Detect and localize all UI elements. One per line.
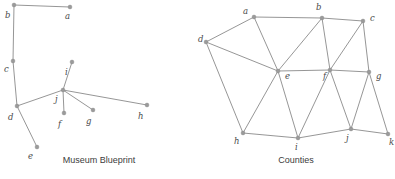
- caption-museum-blueprint: Museum Blueprint: [0, 155, 198, 165]
- graph-node-h[interactable]: [241, 131, 245, 135]
- graph-node-label-d: d: [198, 34, 204, 44]
- graph-node-label-b: b: [316, 2, 321, 12]
- graph-edge: [243, 71, 278, 133]
- graph-edge: [13, 61, 17, 106]
- graph-node-label-i: i: [65, 67, 68, 77]
- graph-edge: [63, 90, 64, 113]
- graph-node-c[interactable]: [361, 19, 365, 23]
- graph-node-d[interactable]: [15, 104, 19, 108]
- graph-edge: [63, 90, 147, 105]
- graph-counties: abcdefghijk: [197, 0, 395, 150]
- graph-node-label-a: a: [243, 6, 248, 16]
- graph-node-label-b: b: [5, 10, 10, 20]
- graph-node-label-d: d: [8, 112, 14, 122]
- graph-node-label-e: e: [285, 71, 290, 81]
- panel-counties: abcdefghijk Counties: [197, 0, 395, 179]
- graph-edge: [363, 21, 369, 72]
- graph-node-b[interactable]: [12, 3, 16, 7]
- graph-museum-blueprint: abcdefghij: [0, 0, 198, 150]
- graph-edge: [351, 129, 388, 134]
- graph-edge: [278, 71, 298, 138]
- graph-node-c[interactable]: [11, 59, 15, 63]
- panel-museum-blueprint: abcdefghij Museum Blueprint: [0, 0, 198, 179]
- graph-edge: [17, 106, 37, 147]
- graph-node-f[interactable]: [62, 111, 66, 115]
- graph-node-label-g: g: [376, 71, 382, 81]
- graph-node-k[interactable]: [386, 132, 390, 136]
- graph-edge: [298, 129, 351, 138]
- graph-edge: [322, 18, 363, 21]
- graph-node-i[interactable]: [296, 136, 300, 140]
- graph-node-label-j: j: [344, 133, 349, 143]
- graph-node-label-c: c: [4, 64, 9, 74]
- graph-node-h[interactable]: [145, 103, 149, 107]
- graph-node-label-a: a: [65, 11, 70, 21]
- graph-node-e[interactable]: [276, 69, 280, 73]
- graph-node-label-j: j: [53, 94, 58, 104]
- graph-node-d[interactable]: [204, 40, 208, 44]
- graph-edge: [278, 18, 322, 71]
- graph-edge: [14, 5, 70, 7]
- graph-edge: [243, 133, 298, 138]
- graph-node-b[interactable]: [320, 16, 324, 20]
- graph-edge: [254, 17, 322, 18]
- graph-edge: [13, 5, 14, 61]
- graph-node-g[interactable]: [91, 108, 95, 112]
- graph-node-label-h: h: [234, 136, 239, 146]
- graph-node-label-i: i: [295, 142, 298, 152]
- graph-edge: [330, 21, 363, 70]
- graph-edge: [322, 18, 330, 70]
- graph-edge: [206, 17, 254, 42]
- graph-node-label-g: g: [86, 116, 92, 126]
- graph-node-f[interactable]: [328, 68, 332, 72]
- graph-node-a[interactable]: [68, 5, 72, 9]
- graph-node-a[interactable]: [252, 15, 256, 19]
- graph-node-label-k: k: [389, 137, 394, 147]
- graph-node-g[interactable]: [367, 70, 371, 74]
- graph-node-label-h: h: [138, 111, 143, 121]
- graph-edge: [369, 72, 388, 134]
- graph-edge: [330, 70, 369, 72]
- figure-root: abcdefghij Museum Blueprint abcdefghijk …: [0, 0, 395, 179]
- graph-node-e[interactable]: [35, 145, 39, 149]
- graph-node-j[interactable]: [349, 127, 353, 131]
- graph-node-label-c: c: [370, 13, 375, 23]
- graph-edge: [206, 42, 243, 133]
- graph-edge: [351, 72, 369, 129]
- graph-node-label-f: f: [57, 119, 63, 129]
- caption-counties: Counties: [197, 155, 395, 165]
- graph-node-i[interactable]: [70, 60, 74, 64]
- graph-node-j[interactable]: [61, 88, 65, 92]
- graph-edge: [330, 70, 351, 129]
